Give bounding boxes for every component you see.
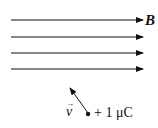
diagram-canvas xyxy=(0,0,158,128)
field-label-b: B xyxy=(145,12,155,29)
charge-label: + 1 μC xyxy=(94,105,133,121)
charge-dot xyxy=(86,112,90,116)
velocity-label: v xyxy=(66,104,72,120)
magnetic-field-lines xyxy=(11,20,143,69)
